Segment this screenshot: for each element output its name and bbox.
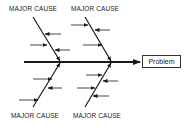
bone-top-left bbox=[33, 17, 60, 61]
bone-bottom-right bbox=[85, 63, 111, 107]
problem-box: Problem bbox=[142, 55, 181, 68]
bone-top-right bbox=[85, 17, 111, 61]
cause-label-bottom-left: MAJOR CAUSE bbox=[11, 112, 59, 119]
minor-arrows-top-left bbox=[30, 34, 70, 50]
problem-label: Problem bbox=[148, 58, 174, 65]
minor-arrows-top-right bbox=[71, 25, 110, 45]
cause-label-top-right: MAJOR CAUSE bbox=[71, 5, 119, 12]
minor-arrows-bottom-left bbox=[19, 79, 62, 100]
cause-label-bottom-right: MAJOR CAUSE bbox=[73, 112, 121, 119]
cause-label-top-left: MAJOR CAUSE bbox=[9, 5, 57, 12]
